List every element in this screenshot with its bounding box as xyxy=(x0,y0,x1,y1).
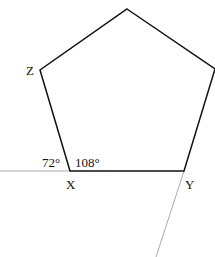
extension-line-y xyxy=(156,171,184,257)
pentagon xyxy=(40,9,215,171)
pentagon-diagram: Z X Y 72° 108° xyxy=(0,0,215,257)
vertex-label-x: X xyxy=(66,178,75,191)
vertex-label-z: Z xyxy=(26,64,34,77)
vertex-label-y: Y xyxy=(185,178,194,191)
diagram-svg xyxy=(0,0,215,257)
exterior-angle-label: 72° xyxy=(42,156,60,169)
interior-angle-label: 108° xyxy=(75,156,100,169)
